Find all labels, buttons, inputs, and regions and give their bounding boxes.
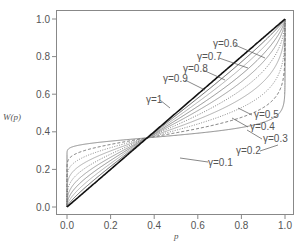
y-tick-label: 0.2 (36, 164, 50, 175)
curve-label: γ=0.2 (236, 145, 261, 156)
y-axis-ticks: 0.00.20.40.60.81.0 (36, 14, 56, 213)
label-leader (260, 145, 278, 151)
probability-weighting-chart: 0.00.20.40.60.81.0 0.00.20.40.60.81.0 γ=… (0, 0, 306, 248)
label-leader (232, 118, 248, 127)
x-axis-label: p (173, 231, 179, 241)
curve-label: γ=0.5 (254, 109, 279, 120)
label-leader (180, 158, 208, 162)
curve-label: γ=0.9 (163, 73, 188, 84)
curve-gamma-1 (67, 19, 285, 207)
curve-label: γ=0.6 (213, 38, 238, 49)
y-tick-label: 0.4 (36, 126, 50, 137)
x-axis-ticks: 0.00.20.40.60.81.0 (60, 215, 292, 232)
x-tick-label: 0.8 (234, 220, 248, 231)
curves (67, 19, 285, 207)
y-axis-label: W(p) (3, 112, 21, 122)
curve-label: γ=0.3 (263, 133, 288, 144)
x-tick-label: 0.0 (60, 220, 74, 231)
x-tick-label: 0.2 (104, 220, 118, 231)
y-tick-label: 0.8 (36, 51, 50, 62)
curve-label: γ=0.7 (197, 51, 222, 62)
x-tick-label: 0.4 (147, 220, 161, 231)
curve-label: γ=0.1 (208, 157, 233, 168)
y-tick-label: 0.6 (36, 89, 50, 100)
x-tick-label: 1.0 (278, 220, 292, 231)
y-tick-label: 0.0 (36, 202, 50, 213)
y-tick-label: 1.0 (36, 14, 50, 25)
label-leader (235, 45, 265, 58)
curve-label: γ=1 (146, 94, 163, 105)
label-leader (238, 108, 252, 115)
x-tick-label: 0.6 (191, 220, 205, 231)
curve-label: γ=0.4 (250, 121, 275, 132)
label-leader (185, 80, 205, 90)
